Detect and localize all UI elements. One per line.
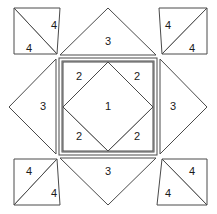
piece-label-edge-triangle-top: 3 (105, 35, 111, 47)
piece-label-edge-triangle-bottom: 3 (105, 165, 111, 177)
piece-label-corner-top-right-upper: 4 (165, 19, 171, 31)
piece-label-corner-bottom-left-upper: 4 (26, 165, 32, 177)
piece-label-corner-bottom-right-upper: 4 (189, 165, 195, 177)
edge-triangle-right-piece (160, 59, 207, 154)
piece-label-inner-corner-bottom-right: 2 (134, 130, 140, 142)
quilt-block-diagram: 1 2 2 2 2 3 3 3 3 4 4 4 4 4 4 4 4 (0, 0, 217, 214)
piece-label-corner-top-left-lower: 4 (26, 42, 32, 54)
edge-triangle-left-piece (9, 59, 56, 154)
piece-label-edge-triangle-right: 3 (170, 100, 176, 112)
piece-label-corner-top-right-lower: 4 (189, 42, 195, 54)
piece-label-inner-corner-bottom-left: 2 (76, 130, 82, 142)
piece-label-corner-bottom-left-lower: 4 (51, 187, 57, 199)
piece-label-corner-top-left-upper: 4 (51, 19, 57, 31)
edge-triangle-top-piece (60, 8, 156, 55)
quilt-block-canvas: 1 2 2 2 2 3 3 3 3 4 4 4 4 4 4 4 4 (0, 0, 217, 214)
piece-label-inner-corner-top-left: 2 (76, 70, 82, 82)
piece-label-edge-triangle-left: 3 (40, 100, 46, 112)
piece-label-inner-corner-top-right: 2 (134, 70, 140, 82)
piece-label-center-diamond: 1 (105, 100, 111, 112)
piece-label-corner-bottom-right-lower: 4 (165, 187, 171, 199)
